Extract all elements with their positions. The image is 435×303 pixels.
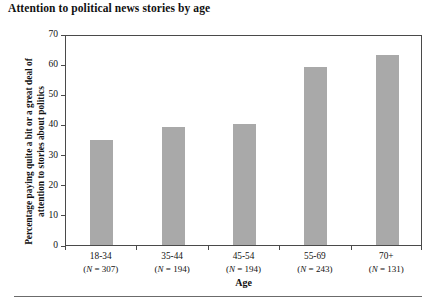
y-tick-label: 70 — [49, 28, 59, 41]
chart-title: Attention to political news stories by a… — [8, 2, 210, 14]
bar — [162, 127, 185, 245]
x-tick-label-n: (N = 131) — [341, 263, 431, 276]
y-tick-label: 60 — [49, 58, 59, 71]
y-tick-label: 30 — [49, 149, 59, 162]
x-axis-labels: 18-34(N = 307)35-44(N = 194)45-54(N = 19… — [65, 250, 422, 280]
y-axis: 010203040506070 — [0, 35, 65, 246]
y-tick-label: 20 — [49, 179, 59, 192]
bars-container — [66, 36, 421, 245]
x-axis-title: Age — [65, 277, 422, 288]
y-tick-label: 40 — [49, 118, 59, 131]
x-tick-label: 70+(N = 131) — [341, 250, 431, 275]
x-tick-label-category: 35-44 — [161, 251, 183, 261]
bar — [304, 67, 327, 245]
plot-area — [65, 35, 422, 246]
bar — [233, 124, 256, 245]
x-tick-label-category: 18-34 — [90, 251, 112, 261]
y-tick-label: 50 — [49, 88, 59, 101]
x-tick-label-category: 70+ — [379, 251, 394, 261]
bottom-rule — [14, 296, 422, 297]
bar — [90, 140, 113, 246]
x-tick-label-category: 45-54 — [233, 251, 255, 261]
x-tick-label-category: 55-69 — [304, 251, 326, 261]
y-tick-label: 10 — [49, 209, 59, 222]
bar — [376, 55, 399, 245]
figure: Attention to political news stories by a… — [0, 0, 435, 303]
